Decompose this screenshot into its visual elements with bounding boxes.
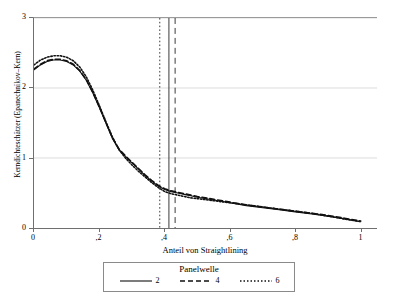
- legend-entries: 246: [104, 276, 294, 285]
- x-axis-label: Anteil von Straightlining: [33, 245, 377, 255]
- x-tick: [33, 228, 34, 232]
- chart-root: { "chart_data": { "type": "line", "title…: [0, 0, 395, 296]
- x-tick: [295, 228, 296, 232]
- x-tick-label: ,2: [87, 233, 111, 242]
- legend-label: 6: [276, 276, 280, 285]
- x-tick-label: 0: [21, 233, 45, 242]
- x-tick: [164, 228, 165, 232]
- plot-area: [33, 17, 377, 228]
- x-axis-line: [33, 228, 377, 229]
- plot-canvas: [34, 18, 377, 228]
- legend-key-dotted-icon: [239, 277, 273, 285]
- legend-key-dashed-icon: [179, 277, 213, 285]
- y-tick-label: 0: [4, 223, 26, 232]
- x-tick-label: ,6: [218, 233, 242, 242]
- y-axis-label: Kerndichteschätzer (Epanechnikov–Kern): [13, 10, 22, 220]
- y-tick: [29, 158, 33, 159]
- legend-label: 2: [156, 276, 160, 285]
- series-line-2: [34, 60, 361, 222]
- legend-key-solid-icon: [119, 277, 153, 285]
- legend: Panelwelle 246: [103, 262, 295, 292]
- legend-title: Panelwelle: [104, 264, 294, 274]
- legend-item-2: 2: [119, 276, 160, 285]
- series-line-4: [34, 59, 361, 221]
- x-tick: [361, 228, 362, 232]
- legend-item-4: 4: [179, 276, 220, 285]
- x-tick-label: 1: [349, 233, 373, 242]
- y-tick: [29, 17, 33, 18]
- x-tick-label: ,8: [283, 233, 307, 242]
- legend-item-6: 6: [239, 276, 280, 285]
- legend-label: 4: [216, 276, 220, 285]
- x-tick: [99, 228, 100, 232]
- x-tick-label: ,4: [152, 233, 176, 242]
- x-tick: [230, 228, 231, 232]
- y-tick: [29, 87, 33, 88]
